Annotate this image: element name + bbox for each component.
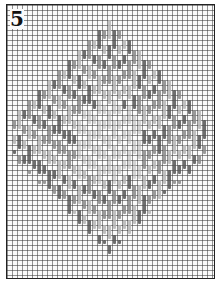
stitch (78, 75, 81, 89)
stitch (83, 215, 86, 224)
stitch (148, 120, 151, 129)
stitch (118, 195, 121, 204)
stitch (178, 165, 181, 174)
stitch (73, 60, 76, 69)
stitch (43, 120, 46, 129)
stitch (83, 185, 86, 194)
stitch (148, 180, 151, 189)
figure-number-label: 5 (10, 9, 24, 29)
stitch (53, 185, 56, 194)
stitch (63, 70, 66, 79)
stitch (43, 135, 46, 144)
stitch (88, 130, 91, 149)
stitch (163, 100, 166, 119)
stitch (48, 170, 51, 189)
stitch (128, 40, 131, 54)
stitch (83, 140, 86, 149)
stitch (128, 105, 131, 124)
stitch (198, 135, 201, 149)
stitch (133, 70, 136, 89)
stitch (103, 225, 106, 234)
stitch (78, 165, 81, 179)
stitch (98, 210, 101, 229)
stitch (103, 210, 106, 219)
stitch (63, 175, 66, 184)
stitch (88, 110, 91, 124)
stitch (113, 210, 116, 229)
stitch (93, 40, 96, 49)
stitch (118, 90, 121, 99)
stitch (138, 75, 141, 89)
stitch (73, 150, 76, 159)
stitch (138, 140, 141, 159)
stitch (123, 100, 126, 109)
stitch (78, 210, 81, 224)
stitch (103, 120, 106, 129)
stitch (133, 205, 136, 224)
stitch (123, 130, 126, 139)
stitch (143, 105, 146, 124)
stitch (158, 180, 161, 199)
stitch (83, 200, 86, 209)
stitch (23, 125, 26, 134)
stitch (118, 225, 121, 234)
stitch (23, 110, 26, 119)
stitch (28, 170, 31, 174)
stitch (63, 130, 66, 139)
stitch (93, 145, 96, 154)
stitch (93, 85, 96, 94)
stitch (173, 90, 176, 109)
stitch (88, 40, 91, 59)
stitch (53, 95, 56, 104)
stitch (158, 160, 161, 174)
stitch (118, 60, 121, 69)
stitch (143, 150, 146, 169)
stitch (153, 160, 156, 169)
stitch (33, 115, 36, 124)
stitch (48, 105, 51, 119)
stitch (33, 145, 36, 154)
stitch (188, 100, 191, 114)
stitch (93, 115, 96, 124)
stitch (113, 75, 116, 94)
stitch (63, 115, 66, 124)
stitch (68, 130, 71, 144)
stitch (128, 85, 131, 99)
stitch (183, 130, 186, 139)
stitch (168, 80, 171, 99)
stitch (158, 70, 161, 84)
stitch (123, 40, 126, 49)
stitch (178, 180, 181, 184)
stitch (193, 155, 196, 164)
stitch (123, 145, 126, 154)
stitch (118, 45, 121, 54)
stitch (153, 70, 156, 79)
stitch (138, 165, 141, 179)
stitch (58, 95, 61, 109)
stitch (93, 205, 96, 214)
stitch (103, 165, 106, 174)
stitch (73, 120, 76, 129)
stitch (103, 240, 106, 244)
stitch (98, 120, 101, 139)
stitch (173, 180, 176, 184)
stitch (48, 150, 51, 164)
stitch (68, 175, 71, 189)
stitch (18, 135, 21, 149)
stitch (168, 170, 171, 189)
stitch (123, 205, 126, 214)
stitch (98, 165, 101, 184)
stitch (38, 115, 41, 129)
stitch (98, 145, 101, 159)
stitch (148, 150, 151, 159)
stitch (113, 100, 116, 114)
stitch (63, 190, 66, 199)
stitch (128, 130, 131, 144)
stitch (83, 80, 86, 89)
stitch (93, 130, 96, 139)
stitch (143, 195, 146, 214)
stitch (118, 120, 121, 129)
stitch (168, 105, 171, 119)
stitch (28, 145, 31, 164)
stitch (123, 55, 126, 64)
